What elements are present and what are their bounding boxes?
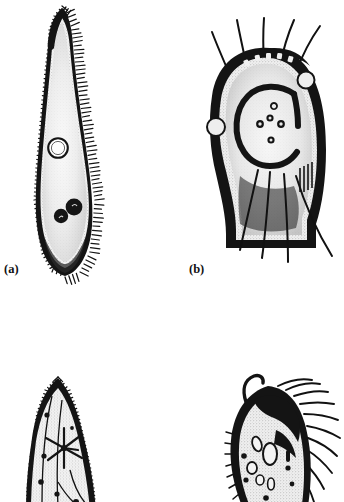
- protozoan-figure-d-drawing: [208, 372, 344, 502]
- figure-c-vacuole-centre: [61, 445, 67, 451]
- figure-d: [208, 372, 344, 502]
- figure-a: [18, 0, 118, 292]
- protozoan-figure-c-drawing: [12, 370, 124, 502]
- figure-plate: (a): [0, 0, 344, 502]
- protozoan-figure-a-drawing: [18, 0, 118, 292]
- figure-b: [196, 10, 344, 292]
- panel-label-b: (b): [189, 263, 204, 276]
- panel-label-a: (a): [4, 263, 19, 276]
- figure-c: [12, 370, 124, 502]
- figure-a-contractile-vacuole: [48, 138, 68, 158]
- protozoan-figure-b-drawing: [196, 10, 344, 292]
